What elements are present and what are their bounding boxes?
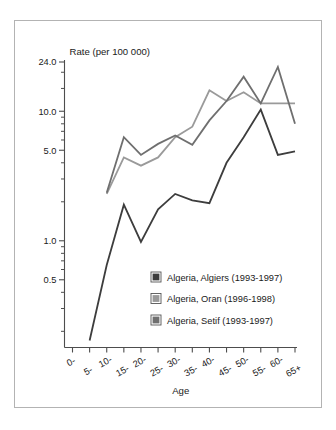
y-axis-title-text: Rate (per 100 000) [70,46,151,57]
legend-label: Algeria, Setif (1993-1997) [167,316,273,326]
x-tick-label: 30- [166,354,183,369]
y-tick-label: 1.0 [44,236,57,246]
y-tick-label: 24.0 [38,57,56,67]
x-tick-label: 55- [251,363,268,378]
x-tick-label: 60- [268,354,285,369]
legend-swatch [153,317,160,324]
x-tick-label: 5- [82,364,94,377]
x-tick-label: 45- [217,363,234,378]
x-tick-label: 50- [234,354,251,369]
y-tick-label: 5.0 [44,146,57,156]
x-tick-label: 65+ [284,363,303,379]
x-axis-title-text: Age [172,385,189,396]
x-tick-label: 15- [114,363,131,378]
x-tick-label: 20- [131,354,148,369]
chart-legend: Algeria, Algiers (1993-1997)Algeria, Ora… [151,272,282,326]
legend-swatch [153,295,160,302]
legend-swatch [153,274,160,281]
y-axis-title: Rate (per 100 000) [70,46,151,57]
line-chart: 24.010.05.01.00.5 0-5-10-15-20-25-30-35-… [0,0,336,430]
x-tick-label: 10- [97,354,114,369]
y-tick-label: 0.5 [44,275,57,285]
x-tick-label: 35- [183,363,200,378]
legend-label: Algeria, Algiers (1993-1997) [167,273,282,283]
figure-root: 24.010.05.01.00.5 0-5-10-15-20-25-30-35-… [0,0,336,430]
x-tick-label: 25- [148,363,165,378]
series-line [107,67,295,193]
y-tick-label: 10.0 [38,107,56,117]
x-tick-label: 0- [65,355,77,368]
y-axis: 24.010.05.01.00.5 [38,57,64,347]
x-axis: 0-5-10-15-20-25-30-35-40-45-50-55-60-65+ [65,348,303,379]
x-tick-label: 40- [200,354,217,369]
legend-label: Algeria, Oran (1996-1998) [167,294,275,304]
x-axis-title: Age [172,385,189,396]
series-line [107,90,295,194]
